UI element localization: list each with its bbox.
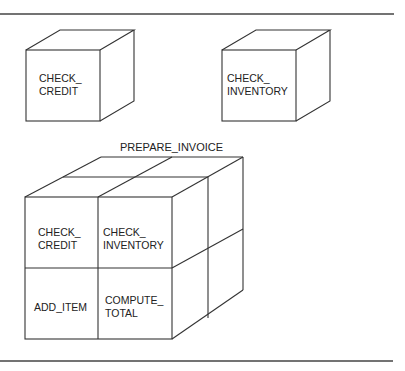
cell-compute-total-label-2: TOTAL [105, 307, 138, 319]
composite-title: PREPARE_INVOICE [120, 141, 223, 153]
cell-check-inventory-label-1: CHECK_ [103, 226, 146, 238]
cell-check-credit-label-1: CHECK_ [38, 226, 81, 238]
cube-check-inventory: CHECK_ INVENTORY [222, 30, 330, 121]
cube-check-credit-label-2: CREDIT [39, 85, 79, 97]
cube-check-inventory-label-2: INVENTORY [227, 85, 288, 97]
cube-check-credit-label-1: CHECK_ [39, 72, 82, 84]
cube-check-credit: CHECK_ CREDIT [26, 30, 134, 121]
cell-check-inventory-label-2: INVENTORY [103, 239, 164, 251]
cell-compute-total-label-1: COMPUTE_ [105, 294, 164, 306]
diagram-canvas: CHECK_ CREDIT CHECK_ INVENTORY PREPARE_I… [0, 0, 405, 371]
cube-prepare-invoice: PREPARE_INVOICE CHECK_ CREDIT CHECK_ INV… [25, 141, 243, 339]
cell-add-item-label: ADD_ITEM [34, 301, 87, 313]
cube-check-inventory-label-1: CHECK_ [227, 72, 270, 84]
cell-check-credit-label-2: CREDIT [38, 239, 78, 251]
